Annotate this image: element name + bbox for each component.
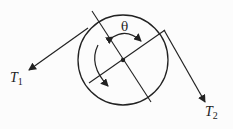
theta-label: θ <box>121 20 128 34</box>
t1-main: T <box>10 70 18 85</box>
tension-t2-arrow <box>164 30 205 102</box>
t1-label: T1 <box>10 70 23 87</box>
t1-subscript: 1 <box>18 76 23 87</box>
theta-arc-arrow <box>113 33 141 41</box>
diagram-drawing <box>0 0 233 129</box>
pulley-diagram: θ T1 T2 <box>0 0 233 129</box>
t2-subscript: 2 <box>213 110 218 121</box>
contact-line-2 <box>89 30 165 83</box>
t2-main: T <box>205 104 213 119</box>
t2-label: T2 <box>205 104 218 121</box>
rotation-arrow <box>95 45 108 86</box>
